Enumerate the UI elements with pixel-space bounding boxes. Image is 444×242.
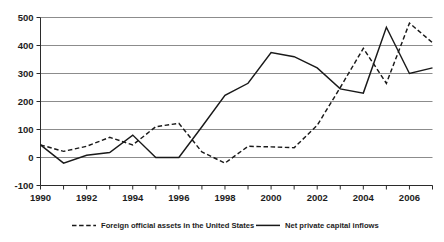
chart-container: -1000100200300400500 1990199219941996199… — [0, 0, 444, 242]
x-tick-label-1990: 1990 — [30, 192, 51, 203]
series-line-1-dashed — [41, 23, 433, 163]
y-axis-tick-labels: -1000100200300400500 — [14, 12, 33, 191]
y-tick-label-300: 300 — [18, 68, 34, 79]
y-tick-label-0: 0 — [28, 152, 33, 163]
x-tick-label-1996: 1996 — [168, 192, 189, 203]
x-axis-ticks — [41, 186, 433, 190]
x-axis-tick-labels: 199019921994199619982000200220042006 — [30, 192, 420, 203]
x-tick-label-1992: 1992 — [76, 192, 97, 203]
x-tick-label-2002: 2002 — [307, 192, 328, 203]
chart-legend: Foreign official assets in the United St… — [72, 221, 379, 230]
x-tick-label-1998: 1998 — [214, 192, 235, 203]
y-tick-label--100: -100 — [14, 180, 33, 191]
y-tick-label-400: 400 — [18, 40, 34, 51]
y-tick-label-100: 100 — [18, 124, 34, 135]
line-chart: -1000100200300400500 1990199219941996199… — [0, 0, 444, 242]
x-tick-label-2004: 2004 — [353, 192, 375, 203]
series-lines — [41, 23, 433, 163]
y-tick-label-200: 200 — [18, 96, 34, 107]
y-tick-label-500: 500 — [18, 12, 34, 23]
x-tick-label-2000: 2000 — [261, 192, 282, 203]
x-tick-label-2006: 2006 — [399, 192, 420, 203]
legend-label-2: Net private capital inflows — [285, 221, 379, 230]
series-line-2-solid — [41, 27, 433, 163]
x-tick-label-1994: 1994 — [122, 192, 144, 203]
gridlines — [41, 18, 433, 186]
legend-label-1: Foreign official assets in the United St… — [101, 221, 254, 230]
